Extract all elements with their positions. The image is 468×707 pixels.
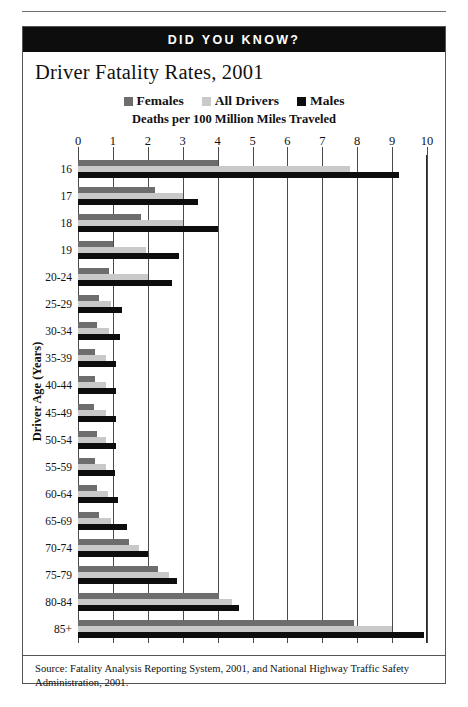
x-tick-label: 3: [180, 134, 186, 149]
legend-label: All Drivers: [215, 93, 279, 109]
bar-males: [78, 416, 116, 422]
bar-males: [78, 470, 115, 476]
banner-label: DID YOU KNOW?: [168, 33, 300, 47]
x-tick-label: 5: [249, 134, 255, 149]
x-tick-label: 6: [284, 134, 290, 149]
category-label: 30-34: [45, 325, 72, 337]
bar-group: 20-24: [78, 263, 427, 290]
did-you-know-panel: DID YOU KNOW? Driver Fatality Rates, 200…: [22, 26, 446, 684]
legend-label: Females: [137, 93, 184, 109]
legend-entry: Females: [124, 93, 184, 109]
bar-males: [78, 361, 116, 367]
square-swatch-icon: [124, 97, 133, 106]
chart-legend: FemalesAll DriversMales: [23, 93, 445, 109]
bar-group: 55-59: [78, 453, 427, 480]
bar-group: 40-44: [78, 372, 427, 399]
x-gridline: [427, 155, 428, 643]
category-label: 85+: [54, 623, 72, 635]
category-label: 40-44: [45, 379, 72, 391]
bar-males: [78, 253, 179, 259]
square-swatch-icon: [202, 97, 211, 106]
category-label: 45-49: [45, 407, 72, 419]
plot-area: 0123456789101617181920-2425-2930-3435-39…: [78, 155, 427, 643]
bar-males: [78, 578, 177, 584]
bar-males: [78, 605, 239, 611]
category-label: 65-69: [45, 515, 72, 527]
category-label: 17: [61, 190, 73, 202]
bar-group: 50-54: [78, 426, 427, 453]
page-header-rule: [22, 11, 446, 12]
bar-males: [78, 280, 172, 286]
category-label: 80-84: [45, 596, 72, 608]
category-label: 35-39: [45, 352, 72, 364]
plot-wrapper: 0123456789101617181920-2425-2930-3435-39…: [23, 131, 445, 651]
legend-entry: All Drivers: [202, 93, 279, 109]
category-label: 18: [61, 217, 73, 229]
bar-males: [78, 226, 218, 232]
bar-males: [78, 632, 424, 638]
bar-group: 35-39: [78, 345, 427, 372]
bar-males: [78, 524, 127, 530]
x-tick-label: 8: [354, 134, 360, 149]
bar-group: 16: [78, 155, 427, 182]
category-label: 70-74: [45, 542, 72, 554]
bar-males: [78, 307, 122, 313]
category-label: 20-24: [45, 271, 72, 283]
bar-group: 85+: [78, 616, 427, 643]
x-tick-label: 9: [389, 134, 395, 149]
bar-males: [78, 388, 116, 394]
category-label: 60-64: [45, 488, 72, 500]
category-label: 16: [61, 163, 73, 175]
bar-group: 45-49: [78, 399, 427, 426]
bar-group: 17: [78, 182, 427, 209]
x-tick-label: 1: [110, 134, 116, 149]
source-divider: [23, 655, 445, 656]
x-tick-label: 10: [421, 134, 434, 149]
category-label: 50-54: [45, 434, 72, 446]
bar-group: 80-84: [78, 589, 427, 616]
source-note: Source: Fatality Analysis Reporting Syst…: [35, 662, 433, 690]
bar-males: [78, 199, 198, 205]
category-label: 19: [61, 244, 73, 256]
bar-males: [78, 443, 116, 449]
category-label: 25-29: [45, 298, 72, 310]
square-swatch-icon: [297, 97, 306, 106]
bar-group: 70-74: [78, 535, 427, 562]
legend-entry: Males: [297, 93, 345, 109]
category-label: 55-59: [45, 461, 72, 473]
chart-title: Driver Fatality Rates, 2001: [35, 61, 264, 84]
bar-group: 19: [78, 236, 427, 263]
bar-group: 60-64: [78, 480, 427, 507]
legend-label: Males: [310, 93, 345, 109]
bar-group: 75-79: [78, 562, 427, 589]
x-tick-label: 7: [319, 134, 325, 149]
bar-group: 18: [78, 209, 427, 236]
bar-males: [78, 497, 118, 503]
x-tick-label: 0: [75, 134, 81, 149]
bar-group: 30-34: [78, 318, 427, 345]
bar-males: [78, 172, 399, 178]
x-tick-label: 4: [214, 134, 220, 149]
chart-axis-caption: Deaths per 100 Million Miles Traveled: [23, 112, 445, 127]
x-tick-label: 2: [145, 134, 151, 149]
bar-group: 25-29: [78, 291, 427, 318]
did-you-know-banner: DID YOU KNOW?: [23, 27, 445, 52]
bar-group: 65-69: [78, 507, 427, 534]
category-label: 75-79: [45, 569, 72, 581]
bar-males: [78, 551, 148, 557]
bar-males: [78, 334, 120, 340]
